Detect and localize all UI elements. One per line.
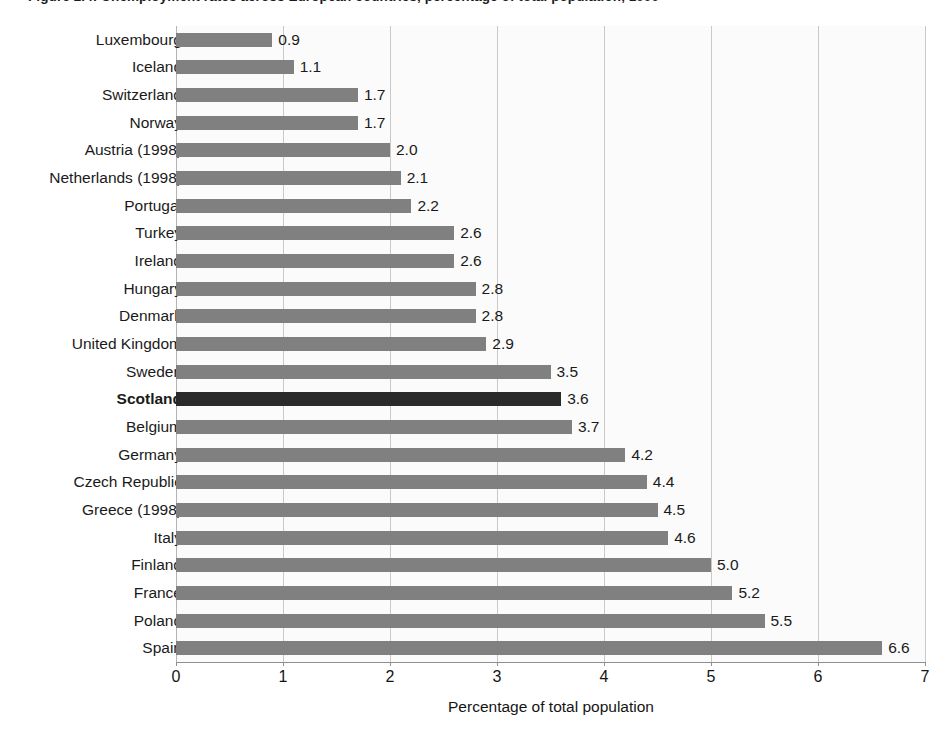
bar-row: Switzerland1.7: [0, 81, 952, 109]
category-label: Turkey: [135, 226, 182, 242]
bar: [176, 365, 551, 379]
bar-row: Hungary2.8: [0, 275, 952, 303]
bar-row: Greece (1998)4.5: [0, 496, 952, 524]
bar-row: United Kingdom2.9: [0, 330, 952, 358]
x-tick-label: 0: [172, 669, 181, 685]
category-label: Sweden: [126, 364, 182, 380]
tick-mark-5: [711, 662, 712, 666]
category-label: Finland: [131, 557, 182, 573]
category-label: Norway: [129, 115, 182, 131]
bar: [176, 88, 358, 102]
bar-row: Luxembourg0.9: [0, 26, 952, 54]
bar-row: Scotland3.6: [0, 385, 952, 413]
category-label: Iceland: [132, 60, 182, 76]
bar-value-label: 2.8: [482, 281, 504, 297]
bar-value-label: 2.0: [396, 143, 418, 159]
category-label: Greece (1998): [82, 502, 182, 518]
bar-row: Italy4.6: [0, 524, 952, 552]
tick-mark-0: [176, 662, 177, 666]
bar-value-label: 2.2: [417, 198, 439, 214]
figure-page: Figure 2.4: Unemployment rates across Eu…: [0, 0, 952, 734]
bar-row: Czech Republic4.4: [0, 468, 952, 496]
category-label: Austria (1998): [85, 143, 182, 159]
category-label: Scotland: [117, 392, 182, 408]
bar-row: Spain6.6: [0, 634, 952, 662]
category-label: Netherlands (1998): [49, 170, 182, 186]
category-label: Hungary: [123, 281, 182, 297]
bar-value-label: 2.6: [460, 226, 482, 242]
bar: [176, 337, 486, 351]
bar-row: Austria (1998)2.0: [0, 137, 952, 165]
bar-value-label: 5.5: [771, 613, 793, 629]
bar-row: Turkey2.6: [0, 220, 952, 248]
category-label: Switzerland: [102, 87, 182, 103]
bar-value-label: 4.6: [674, 530, 696, 546]
bar: [176, 226, 454, 240]
bar: [176, 199, 411, 213]
tick-mark-7: [925, 662, 926, 666]
bar: [176, 641, 882, 655]
x-tick-label: 1: [279, 669, 288, 685]
tick-mark-1: [283, 662, 284, 666]
tick-mark-6: [818, 662, 819, 666]
bar-row: Belgium3.7: [0, 413, 952, 441]
bar: [176, 60, 294, 74]
bar: [176, 171, 401, 185]
bar-row: Ireland2.6: [0, 247, 952, 275]
bar-row: Germany4.2: [0, 441, 952, 469]
bar: [176, 392, 561, 406]
x-tick-label: 5: [707, 669, 716, 685]
bar-row: Sweden3.5: [0, 358, 952, 386]
tick-mark-2: [390, 662, 391, 666]
bar-chart: Luxembourg0.9Iceland1.1Switzerland1.7Nor…: [0, 0, 952, 734]
bar: [176, 143, 390, 157]
tick-mark-3: [497, 662, 498, 666]
bar-row: Denmark2.8: [0, 303, 952, 331]
bar-value-label: 5.2: [738, 585, 760, 601]
bar-value-label: 2.9: [492, 336, 514, 352]
bar-value-label: 1.1: [300, 60, 322, 76]
bar-value-label: 3.5: [557, 364, 579, 380]
bar: [176, 586, 732, 600]
bar-value-label: 1.7: [364, 115, 386, 131]
bar-value-label: 4.4: [653, 474, 675, 490]
bar-value-label: 3.6: [567, 392, 589, 408]
x-tick-label: 3: [493, 669, 502, 685]
bar-value-label: 5.0: [717, 557, 739, 573]
bar-value-label: 6.6: [888, 640, 910, 656]
bar-value-label: 2.8: [482, 309, 504, 325]
category-label: France: [134, 585, 182, 601]
category-label: Luxembourg: [96, 32, 182, 48]
bar-row: Netherlands (1998)2.1: [0, 164, 952, 192]
bar-row: Iceland1.1: [0, 54, 952, 82]
bar-value-label: 4.5: [664, 502, 686, 518]
bar-value-label: 2.6: [460, 253, 482, 269]
x-tick-label: 6: [814, 669, 823, 685]
tick-mark-4: [604, 662, 605, 666]
bar: [176, 531, 668, 545]
x-tick-label: 7: [921, 669, 930, 685]
bar-row: France5.2: [0, 579, 952, 607]
bar-value-label: 3.7: [578, 419, 600, 435]
x-axis-title: Percentage of total population: [176, 698, 926, 716]
bar-row: Finland5.0: [0, 551, 952, 579]
bar-value-label: 4.2: [631, 447, 653, 463]
bar: [176, 475, 647, 489]
bar-value-label: 0.9: [278, 32, 300, 48]
category-label: Ireland: [135, 253, 182, 269]
category-label: Belgium: [126, 419, 182, 435]
bar: [176, 33, 272, 47]
bar: [176, 254, 454, 268]
category-label: United Kingdom: [72, 336, 182, 352]
category-label: Poland: [134, 613, 182, 629]
x-tick-label: 2: [386, 669, 395, 685]
bar-value-label: 1.7: [364, 87, 386, 103]
bar: [176, 309, 476, 323]
x-tick-label: 4: [600, 669, 609, 685]
bar: [176, 558, 711, 572]
bar: [176, 116, 358, 130]
bar: [176, 503, 658, 517]
bar: [176, 448, 625, 462]
bar-row: Portugal2.2: [0, 192, 952, 220]
bar-row: Poland5.5: [0, 607, 952, 635]
